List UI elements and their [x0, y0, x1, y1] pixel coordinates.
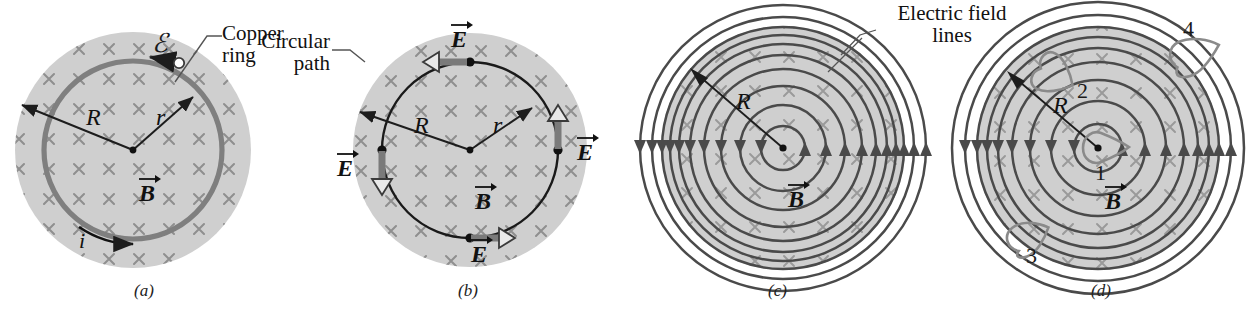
label-radius-R-c: R	[736, 88, 751, 115]
vector-arrow-E-left	[336, 147, 362, 159]
label-field-B-a: B	[139, 180, 155, 207]
panel-b: R r B E E E E (b)	[310, 0, 628, 311]
label-radius-r-b: r	[493, 112, 502, 139]
physics-figure: R r B i ℰ (a) Copper ring	[0, 0, 1255, 311]
label-test-path-3: 3	[1026, 243, 1037, 269]
vector-arrow-B-c	[787, 178, 813, 190]
panel-d: R B 1 2 3 4 (d)	[943, 0, 1255, 311]
emf-terminal-circle	[174, 58, 184, 68]
center-dot-c	[779, 144, 786, 151]
label-E-right: E	[577, 139, 593, 166]
panel-letter-c: (c)	[768, 281, 787, 301]
label-test-path-2: 2	[1077, 78, 1088, 104]
label-radius-r-a: r	[156, 104, 165, 131]
vector-arrow-E-top	[450, 18, 476, 30]
label-E-bottom: E	[471, 241, 487, 268]
panel-d-drawing	[943, 0, 1255, 311]
callout-circular-path: Circular path	[200, 30, 330, 75]
label-current-i-a: i	[79, 228, 85, 254]
panel-c-drawing	[628, 0, 943, 311]
vector-arrow-E-bottom	[470, 233, 496, 245]
label-field-B-d: B	[1105, 188, 1121, 215]
vector-arrow-B-b	[474, 180, 500, 192]
center-dot-b	[467, 147, 474, 154]
leader-line-circular-path	[332, 50, 365, 62]
label-field-B-c: B	[788, 186, 804, 213]
vector-arrow-B-d	[1104, 180, 1130, 192]
label-test-path-1: 1	[1095, 160, 1106, 186]
label-field-B-b: B	[475, 188, 491, 215]
label-radius-R-a: R	[86, 104, 101, 131]
panel-letter-a: (a)	[134, 281, 154, 301]
vector-arrow-B-a	[138, 172, 164, 184]
panel-letter-d: (d)	[1091, 281, 1111, 301]
vector-arrow-E-right	[576, 131, 602, 143]
label-radius-R-d: R	[1053, 92, 1068, 119]
label-E-left: E	[337, 155, 353, 182]
panel-c: R B (c)	[628, 0, 943, 311]
center-dot-a	[130, 147, 137, 154]
label-radius-R-b: R	[414, 112, 429, 139]
center-dot-d	[1094, 144, 1101, 151]
label-test-path-4: 4	[1183, 16, 1194, 42]
label-E-top: E	[451, 26, 467, 53]
panel-letter-b: (b)	[458, 281, 478, 301]
label-emf-a: ℰ	[152, 28, 168, 59]
